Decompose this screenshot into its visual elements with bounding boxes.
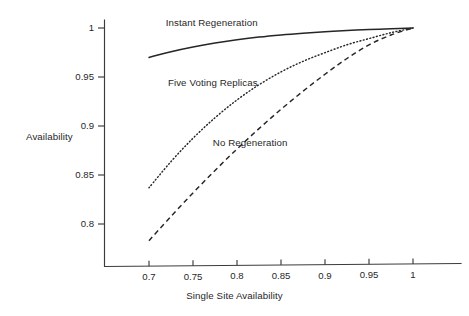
y-axis-ticks	[98, 28, 105, 224]
y-tick-label: 0.9	[40, 120, 94, 131]
availability-chart-figure: 0.80.850.90.951 0.70.750.80.850.90.951 I…	[0, 0, 469, 316]
y-axis-title: Availability	[26, 131, 73, 142]
y-tick-label: 1	[40, 22, 94, 33]
chart-series-group	[149, 28, 413, 241]
y-tick-label: 0.8	[40, 218, 94, 229]
series-curve-instant-regeneration	[149, 28, 413, 57]
x-axis-ticks	[149, 258, 413, 266]
series-curve-no-regeneration	[149, 28, 413, 241]
series-annotation-label: Instant Regeneration	[166, 17, 258, 28]
y-tick-label: 0.85	[40, 169, 94, 180]
y-tick-label: 0.95	[40, 71, 94, 82]
series-annotation-label: Five Voting Replicas	[168, 77, 258, 88]
x-axis-title: Single Site Availability	[0, 290, 469, 301]
x-tick-label: 1	[383, 269, 443, 280]
series-annotation-label: No Regeneration	[213, 137, 288, 148]
series-curve-five-voting-replicas	[149, 28, 413, 188]
